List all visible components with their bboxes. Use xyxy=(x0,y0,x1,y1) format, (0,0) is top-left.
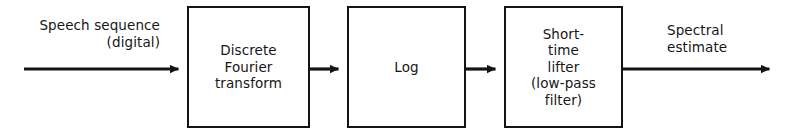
input-signal-label: Speech sequence (digital) xyxy=(39,17,160,51)
block-label-lifter: Short- time lifter (low-pass filter) xyxy=(529,26,598,109)
block-log: Log xyxy=(347,6,466,128)
block-label-dft: Discrete Fourier transform xyxy=(213,42,284,92)
block-discrete-fourier-transform: Discrete Fourier transform xyxy=(187,6,310,128)
block-label-log: Log xyxy=(392,59,420,76)
block-diagram: Discrete Fourier transform Log Short- ti… xyxy=(0,0,794,136)
block-short-time-lifter: Short- time lifter (low-pass filter) xyxy=(504,6,623,128)
output-signal-label: Spectral estimate xyxy=(667,22,727,56)
